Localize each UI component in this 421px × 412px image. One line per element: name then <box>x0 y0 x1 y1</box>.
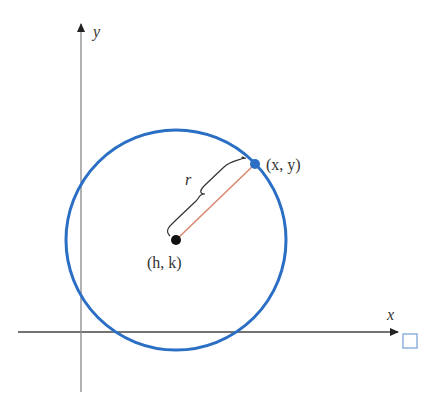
y-axis-label: y <box>91 23 101 41</box>
center-point <box>171 235 181 245</box>
center-label: (h, k) <box>147 254 182 272</box>
point-on-circle <box>250 159 260 169</box>
radius-brace <box>168 157 246 236</box>
point-label: (x, y) <box>266 156 301 174</box>
corner-box <box>403 334 417 348</box>
circle-diagram: y x (x, y) (h, k) r <box>0 0 421 412</box>
radius-label: r <box>185 171 192 188</box>
x-axis-label: x <box>386 306 394 323</box>
